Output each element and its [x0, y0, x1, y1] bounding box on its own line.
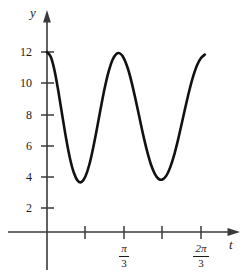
plot-canvas [0, 0, 250, 277]
fraction-denominator: 3 [119, 257, 129, 270]
curve-line [47, 52, 205, 182]
fraction-numerator: π [119, 243, 129, 257]
fraction-2pi-3: 2π 3 [193, 243, 208, 269]
graph-figure: y t 12 10 8 6 4 2 π 3 2π 3 [0, 0, 250, 277]
x-tick-label-pi-over-3: π 3 [110, 243, 138, 269]
y-tick-label-10: 10 [10, 77, 32, 89]
fraction-pi-3: π 3 [119, 243, 129, 269]
fraction-numerator: 2π [193, 243, 208, 257]
y-axis-label: y [30, 6, 36, 19]
y-tick-label-8: 8 [10, 109, 32, 121]
y-tick-label-2: 2 [10, 202, 32, 214]
y-tick-label-12: 12 [10, 46, 32, 58]
x-tick-label-2pi-over-3: 2π 3 [186, 243, 216, 269]
y-axis [43, 10, 51, 270]
y-tick-label-4: 4 [10, 171, 32, 183]
y-tick-label-6: 6 [10, 140, 32, 152]
x-axis-label: t [229, 238, 233, 251]
fraction-denominator: 3 [193, 257, 208, 270]
